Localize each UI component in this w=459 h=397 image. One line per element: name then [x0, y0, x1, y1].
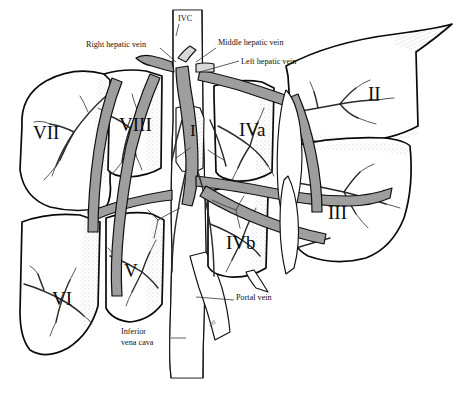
segment-VI-block: [20, 214, 100, 354]
segment-label-VI: VI: [52, 288, 72, 309]
segment-label-III: III: [328, 202, 347, 223]
annotation-ivc-top: IVC: [178, 14, 193, 23]
segment-label-I: I: [190, 121, 196, 140]
segment-label-IVa: IVa: [239, 119, 266, 140]
segment-label-VII: VII: [33, 122, 59, 143]
segment-label-II: II: [368, 83, 381, 104]
illustration-canvas: IVC Right hepatic vein Middle hepatic ve…: [0, 0, 459, 397]
segment-label-VIII: VIII: [119, 114, 152, 135]
annotation-inferior-vena-cava-line2: vena cava: [121, 338, 154, 347]
segment-label-IVb: IVb: [226, 232, 256, 253]
annotation-middle-hepatic-vein: Middle hepatic vein: [218, 38, 283, 47]
annotation-left-hepatic-vein: Left hepatic vein: [241, 57, 296, 66]
annotation-inferior-vena-cava-line1: Inferior: [121, 327, 146, 336]
liver-anatomy-figure: IVC Right hepatic vein Middle hepatic ve…: [0, 0, 459, 397]
annotation-right-hepatic-vein: Right hepatic vein: [86, 40, 146, 49]
annotation-portal-vein: Portal vein: [236, 293, 272, 302]
segment-label-V: V: [124, 260, 138, 281]
